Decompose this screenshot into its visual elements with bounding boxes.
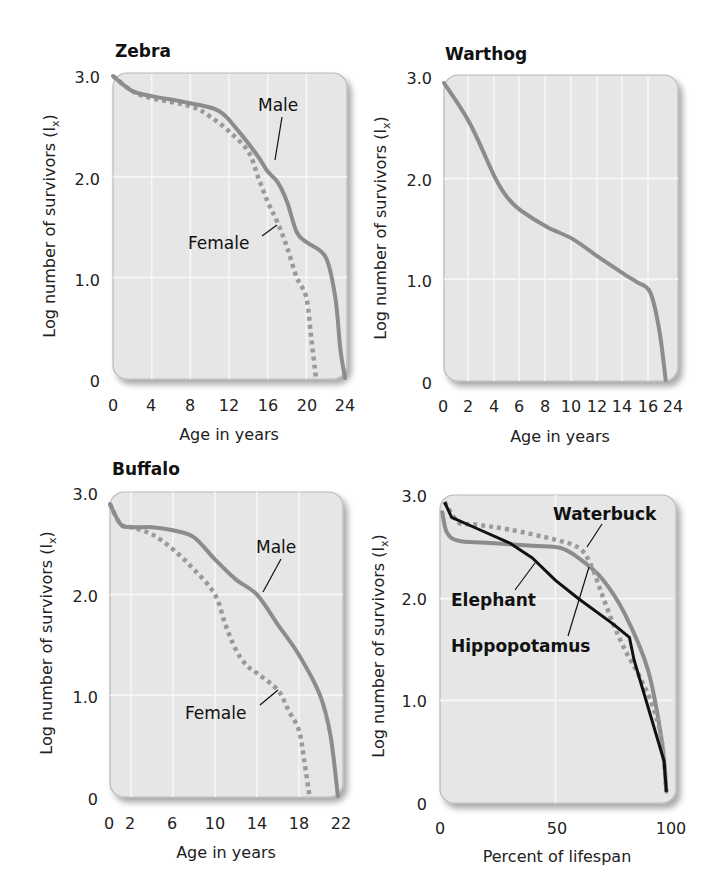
survivorship-figure: Zebra 3.0 2.0 1.0 0 0 4 8 12 16 20 24 Ag…: [0, 0, 726, 892]
x-tick: 14: [612, 397, 632, 416]
y-tick: 1.0: [73, 688, 98, 707]
y-tick: 3.0: [402, 487, 427, 506]
x-tick: 0: [108, 396, 118, 415]
y-ticks: 3.0 2.0 1.0 0: [402, 487, 427, 814]
y-tick: 0: [88, 790, 98, 809]
x-ticks: 0 50 100: [435, 819, 686, 838]
x-tick: 0: [104, 814, 114, 833]
y-tick: 2.0: [75, 170, 100, 189]
y-tick: 1.0: [402, 692, 427, 711]
x-tick: 24: [663, 397, 683, 416]
y-ticks: 3.0 2.0 1.0 0: [73, 485, 98, 809]
x-tick: 6: [514, 397, 524, 416]
panel-lifespan-comparison: 3.0 2.0 1.0 0 0 50 100 Percent of lifesp…: [369, 487, 686, 866]
y-axis-label: Log number of survivors (lx): [37, 531, 59, 754]
y-tick: 1.0: [75, 271, 100, 290]
x-ticks: 0 2 4 6 8 10 12 14 16 24: [438, 397, 683, 416]
plot-area: [110, 492, 343, 797]
x-tick: 10: [205, 814, 225, 833]
x-tick: 4: [146, 396, 156, 415]
panel-warthog: Warthog 3.0 2.0 1.0 0 0 2 4 6 8 10 12 14…: [371, 44, 683, 446]
x-tick: 2: [125, 814, 135, 833]
x-axis-label: Age in years: [510, 427, 610, 446]
x-axis-label: Age in years: [176, 843, 276, 862]
x-tick: 8: [185, 396, 195, 415]
x-axis-label: Age in years: [179, 425, 279, 444]
panel-title: Zebra: [115, 41, 171, 61]
x-tick: 12: [587, 397, 607, 416]
x-tick: 24: [335, 396, 355, 415]
x-ticks: 0 4 8 12 16 20 24: [108, 396, 355, 415]
y-tick: 0: [90, 372, 100, 391]
y-tick: 3.0: [75, 68, 100, 87]
annotation-female: Female: [188, 233, 249, 253]
y-ticks: 3.0 2.0 1.0 0: [75, 68, 100, 391]
annotation-waterbuck: Waterbuck: [553, 504, 657, 524]
x-axis-label: Percent of lifespan: [483, 847, 632, 866]
x-tick: 0: [438, 397, 448, 416]
x-tick: 18: [289, 814, 309, 833]
annotation-male: Male: [258, 95, 298, 115]
panel-title: Buffalo: [112, 459, 180, 479]
y-tick: 0: [417, 795, 427, 814]
x-tick: 0: [435, 819, 445, 838]
x-tick: 2: [463, 397, 473, 416]
x-tick: 100: [656, 819, 687, 838]
y-tick: 2.0: [402, 590, 427, 609]
x-tick: 14: [247, 814, 267, 833]
y-axis-label: Log number of survivors (lx): [369, 534, 391, 757]
y-ticks: 3.0 2.0 1.0 0: [407, 69, 432, 393]
annotation-male: Male: [256, 537, 296, 557]
plot-area: [444, 75, 678, 381]
y-axis-label: Log number of survivors (lx): [40, 114, 62, 337]
panel-title: Warthog: [445, 44, 527, 64]
y-tick: 0: [422, 374, 432, 393]
annotation-elephant: Elephant: [451, 590, 536, 610]
y-tick: 1.0: [407, 272, 432, 291]
y-axis-label: Log number of survivors (lx): [371, 116, 393, 339]
x-ticks: 0 2 6 10 14 18 22: [104, 814, 351, 833]
x-tick: 50: [547, 819, 567, 838]
x-tick: 16: [258, 396, 278, 415]
panel-buffalo: Buffalo 3.0 2.0 1.0 0 0 2 6 10 14 18 22 …: [37, 459, 351, 862]
x-tick: 4: [489, 397, 499, 416]
x-tick: 20: [297, 396, 317, 415]
annotation-female: Female: [185, 703, 246, 723]
annotation-hippopotamus: Hippopotamus: [451, 636, 590, 656]
y-tick: 2.0: [407, 171, 432, 190]
x-tick: 16: [638, 397, 658, 416]
y-tick: 3.0: [407, 69, 432, 88]
x-tick: 12: [219, 396, 239, 415]
x-tick: 22: [331, 814, 351, 833]
y-tick: 3.0: [73, 485, 98, 504]
x-tick: 8: [540, 397, 550, 416]
x-tick: 6: [167, 814, 177, 833]
x-tick: 10: [561, 397, 581, 416]
y-tick: 2.0: [73, 587, 98, 606]
panel-zebra: Zebra 3.0 2.0 1.0 0 0 4 8 12 16 20 24 Ag…: [40, 41, 355, 444]
